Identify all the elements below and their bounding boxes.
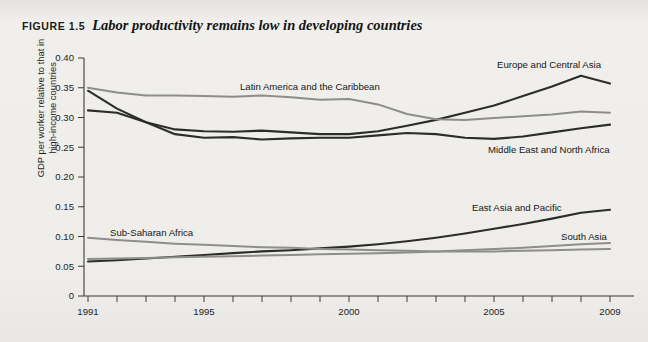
y-tick-label: 0.40 [55,52,74,63]
x-tick-label: 1995 [193,306,214,317]
series-label-sub-saharan-africa: Sub-Saharan Africa [110,227,194,238]
y-tick-label: 0.35 [55,82,74,93]
x-tick-label: 2000 [338,306,359,317]
y-tick-label: 0.05 [55,261,74,272]
line-chart: 0.400.350.300.250.200.150.100.050 199119… [0,0,648,342]
series-label-south-asia: South Asia [561,231,608,242]
series-line-sub-saharan-africa [88,238,610,252]
y-tick-label: 0 [69,290,74,301]
series-annotation-group: Latin America and the Caribbean Europe a… [110,59,610,242]
axis-group [84,58,634,296]
y-tick-label: 0.20 [55,171,74,182]
chart-plot-area: 0.400.350.300.250.200.150.100.050 199119… [0,0,648,342]
x-tick-label: 2005 [483,306,504,317]
series-label-latin-america: Latin America and the Caribbean [240,81,380,92]
series-label-east-asia-pacific: East Asia and Pacific [472,202,562,213]
x-tick-group: 19911995200020052009 [77,296,620,317]
y-tick-group: 0.400.350.300.250.200.150.100.050 [55,52,84,301]
series-label-middle-east-north-africa: Middle East and North Africa [488,144,610,155]
x-tick-label: 1991 [77,306,98,317]
y-tick-label: 0.25 [55,142,74,153]
y-tick-label: 0.10 [55,231,74,242]
x-tick-label: 2009 [599,306,620,317]
y-tick-label: 0.30 [55,112,74,123]
figure-container: FIGURE 1.5Labor productivity remains low… [0,0,648,342]
y-tick-label: 0.15 [55,201,74,212]
series-label-europe-central-asia: Europe and Central Asia [497,59,602,70]
